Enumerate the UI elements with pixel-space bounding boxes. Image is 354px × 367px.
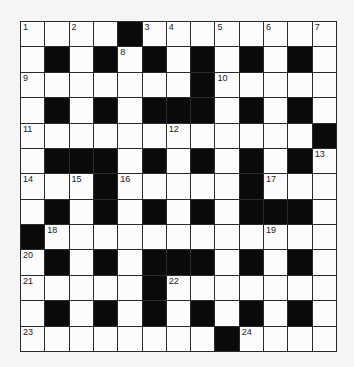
- grid-cell[interactable]: 18: [45, 225, 68, 249]
- grid-cell[interactable]: [264, 250, 287, 274]
- grid-cell[interactable]: [45, 73, 68, 97]
- grid-cell[interactable]: 14: [21, 174, 44, 198]
- grid-cell[interactable]: [215, 174, 238, 198]
- grid-cell[interactable]: [94, 22, 117, 46]
- grid-cell[interactable]: [167, 200, 190, 224]
- grid-cell[interactable]: 10: [215, 73, 238, 97]
- grid-cell[interactable]: [45, 124, 68, 148]
- grid-cell[interactable]: [70, 301, 93, 325]
- grid-cell[interactable]: [45, 22, 68, 46]
- grid-cell[interactable]: [94, 327, 117, 351]
- grid-cell[interactable]: [215, 98, 238, 122]
- grid-cell[interactable]: [240, 22, 263, 46]
- grid-cell[interactable]: [313, 225, 336, 249]
- grid-cell[interactable]: [215, 124, 238, 148]
- grid-cell[interactable]: [70, 276, 93, 300]
- grid-cell[interactable]: [143, 124, 166, 148]
- grid-cell[interactable]: [118, 327, 141, 351]
- grid-cell[interactable]: [118, 250, 141, 274]
- grid-cell[interactable]: 7: [313, 22, 336, 46]
- grid-cell[interactable]: [288, 174, 311, 198]
- grid-cell[interactable]: [167, 149, 190, 173]
- grid-cell[interactable]: [167, 327, 190, 351]
- grid-cell[interactable]: [21, 47, 44, 71]
- grid-cell[interactable]: [240, 225, 263, 249]
- grid-cell[interactable]: [167, 47, 190, 71]
- grid-cell[interactable]: [240, 73, 263, 97]
- grid-cell[interactable]: 15: [70, 174, 93, 198]
- grid-cell[interactable]: 5: [215, 22, 238, 46]
- grid-cell[interactable]: [215, 47, 238, 71]
- grid-cell[interactable]: [143, 327, 166, 351]
- grid-cell[interactable]: [264, 73, 287, 97]
- grid-cell[interactable]: [21, 301, 44, 325]
- grid-cell[interactable]: [313, 47, 336, 71]
- grid-cell[interactable]: [264, 124, 287, 148]
- grid-cell[interactable]: [264, 149, 287, 173]
- grid-cell[interactable]: [313, 200, 336, 224]
- grid-cell[interactable]: [143, 73, 166, 97]
- grid-cell[interactable]: 11: [21, 124, 44, 148]
- grid-cell[interactable]: [94, 276, 117, 300]
- grid-cell[interactable]: [70, 98, 93, 122]
- grid-cell[interactable]: [240, 124, 263, 148]
- grid-cell[interactable]: [118, 276, 141, 300]
- grid-cell[interactable]: [313, 327, 336, 351]
- grid-cell[interactable]: 23: [21, 327, 44, 351]
- grid-cell[interactable]: [167, 225, 190, 249]
- grid-cell[interactable]: 24: [240, 327, 263, 351]
- grid-cell[interactable]: [288, 124, 311, 148]
- grid-cell[interactable]: [264, 98, 287, 122]
- grid-cell[interactable]: [215, 276, 238, 300]
- grid-cell[interactable]: 4: [167, 22, 190, 46]
- grid-cell[interactable]: [143, 225, 166, 249]
- grid-cell[interactable]: [118, 98, 141, 122]
- grid-cell[interactable]: [45, 276, 68, 300]
- grid-cell[interactable]: [313, 301, 336, 325]
- grid-cell[interactable]: [70, 250, 93, 274]
- grid-cell[interactable]: 2: [70, 22, 93, 46]
- grid-cell[interactable]: [94, 124, 117, 148]
- grid-cell[interactable]: [143, 174, 166, 198]
- grid-cell[interactable]: 12: [167, 124, 190, 148]
- grid-cell[interactable]: [21, 149, 44, 173]
- grid-cell[interactable]: [191, 22, 214, 46]
- grid-cell[interactable]: [70, 225, 93, 249]
- grid-cell[interactable]: [215, 301, 238, 325]
- grid-cell[interactable]: 6: [264, 22, 287, 46]
- grid-cell[interactable]: [45, 327, 68, 351]
- grid-cell[interactable]: [21, 98, 44, 122]
- grid-cell[interactable]: [313, 276, 336, 300]
- grid-cell[interactable]: 21: [21, 276, 44, 300]
- grid-cell[interactable]: [70, 73, 93, 97]
- grid-cell[interactable]: [94, 225, 117, 249]
- grid-cell[interactable]: [215, 149, 238, 173]
- grid-cell[interactable]: [118, 73, 141, 97]
- grid-cell[interactable]: [215, 250, 238, 274]
- grid-cell[interactable]: [313, 250, 336, 274]
- grid-cell[interactable]: [70, 47, 93, 71]
- grid-cell[interactable]: 1: [21, 22, 44, 46]
- grid-cell[interactable]: 13: [313, 149, 336, 173]
- grid-cell[interactable]: [288, 276, 311, 300]
- grid-cell[interactable]: [240, 276, 263, 300]
- grid-cell[interactable]: [167, 301, 190, 325]
- grid-cell[interactable]: [118, 200, 141, 224]
- grid-cell[interactable]: [313, 98, 336, 122]
- grid-cell[interactable]: 20: [21, 250, 44, 274]
- grid-cell[interactable]: [118, 124, 141, 148]
- grid-cell[interactable]: [264, 47, 287, 71]
- grid-cell[interactable]: [118, 225, 141, 249]
- grid-cell[interactable]: [70, 124, 93, 148]
- grid-cell[interactable]: [167, 73, 190, 97]
- grid-cell[interactable]: 19: [264, 225, 287, 249]
- grid-cell[interactable]: [264, 276, 287, 300]
- grid-cell[interactable]: [94, 73, 117, 97]
- grid-cell[interactable]: [118, 149, 141, 173]
- grid-cell[interactable]: [21, 200, 44, 224]
- grid-cell[interactable]: 8: [118, 47, 141, 71]
- grid-cell[interactable]: [264, 301, 287, 325]
- grid-cell[interactable]: [70, 327, 93, 351]
- grid-cell[interactable]: [313, 174, 336, 198]
- grid-cell[interactable]: [215, 225, 238, 249]
